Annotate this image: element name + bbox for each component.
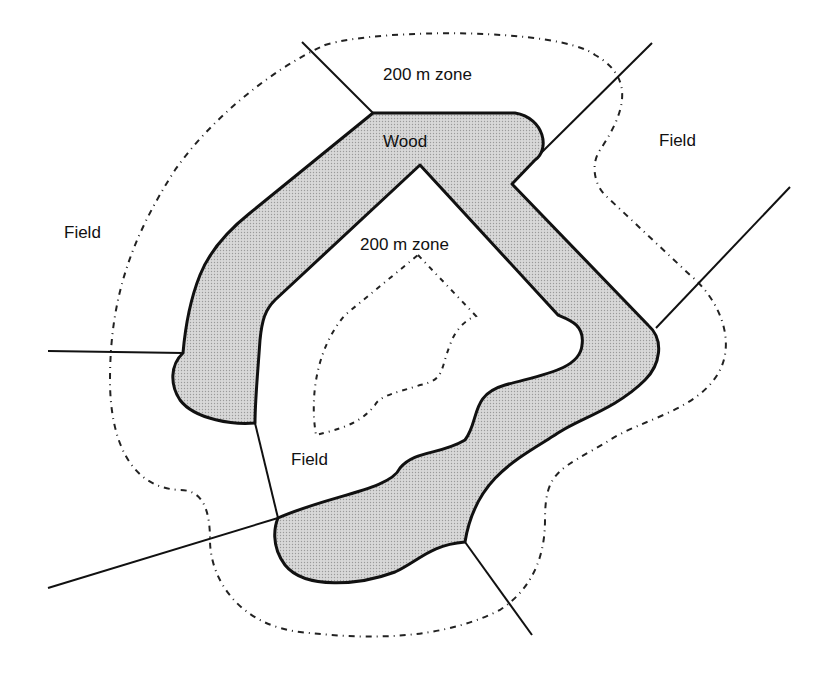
label-200m-zone-top: 200 m zone	[383, 66, 472, 83]
map-svg	[0, 0, 829, 677]
label-200m-zone-inner: 200 m zone	[360, 236, 449, 253]
label-field-left: Field	[64, 224, 101, 241]
diagram-canvas: 200 m zone Wood Field Field 200 m zone F…	[0, 0, 829, 677]
label-field-bottom: Field	[291, 451, 328, 468]
label-field-right: Field	[659, 132, 696, 149]
wood-area	[173, 113, 659, 583]
label-wood: Wood	[383, 133, 427, 150]
inner-zone-boundary	[314, 255, 476, 435]
